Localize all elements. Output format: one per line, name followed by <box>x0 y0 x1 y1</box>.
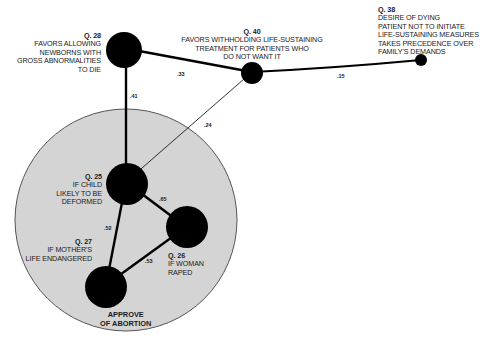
node-q27 <box>85 266 127 308</box>
label-q26: Q. 26 IF WOMAN RAPED <box>168 252 204 277</box>
label-line: RAPED <box>168 269 204 277</box>
label-q25: Q. 25 IF CHILD LIKELY TO BE DEFORMED <box>40 173 102 207</box>
node-q26 <box>166 206 208 248</box>
node-q28 <box>106 32 142 68</box>
cluster-title-line1: APPROVE <box>100 310 151 319</box>
coef-q25-q27: .52 <box>104 225 112 231</box>
coef-q28-q25: .41 <box>130 93 138 99</box>
coef-q40-q38: .15 <box>337 73 345 79</box>
label-line: LIFE ENDANGERED <box>20 255 92 263</box>
cluster-title-line2: OF ABORTION <box>100 319 151 328</box>
node-q40 <box>241 62 263 84</box>
label-q28: Q. 28 FAVORS ALLOWING NEWBORNS WITH GROS… <box>10 32 101 74</box>
node-q25 <box>106 163 148 205</box>
coef-q40-q25: .24 <box>204 122 212 128</box>
label-line: DO NOT WANT IT <box>180 53 324 61</box>
label-line: TO DIE <box>10 66 101 74</box>
coef-q27-q26: .53 <box>145 258 153 264</box>
label-q40: Q. 40 FAVORS WITHHOLDING LIFE-SUSTAINING… <box>180 28 324 62</box>
cluster-title: APPROVE OF ABORTION <box>100 310 151 328</box>
label-q38: Q. 38 DESIRE OF DYING PATIENT NOT TO INI… <box>378 6 479 56</box>
coef-q25-q26: .65 <box>159 196 167 202</box>
edge-q40-q38 <box>252 60 421 72</box>
label-q27: Q. 27 IF MOTHER'S LIFE ENDANGERED <box>20 238 92 263</box>
coef-q28-q40: .33 <box>177 71 185 77</box>
label-line: FAMILY'S DEMANDS <box>378 48 479 56</box>
label-line: DEFORMED <box>40 198 102 206</box>
